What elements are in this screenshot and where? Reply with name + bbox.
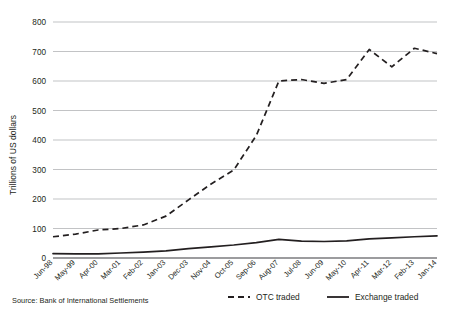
y-tick-label: 500 — [32, 107, 46, 116]
legend-label-exchange-traded: Exchange traded — [355, 292, 419, 302]
legend-label-otc-traded: OTC traded — [256, 292, 300, 302]
chart-container: 0100200300400500600700800 Trillions of U… — [0, 0, 450, 322]
y-tick-label: 800 — [32, 18, 46, 27]
y-axis-title: Trillions of US dollars — [8, 115, 18, 195]
y-tick-label: 300 — [32, 166, 46, 175]
y-tick-label: 100 — [32, 225, 46, 234]
y-axis-tick-labels: 0100200300400500600700800 — [32, 18, 46, 263]
source-note: Source: Bank of International Settlement… — [12, 296, 149, 305]
y-tick-label: 400 — [32, 136, 46, 145]
y-tick-label: 700 — [32, 48, 46, 57]
line-chart: 0100200300400500600700800 Trillions of U… — [0, 0, 450, 322]
y-tick-label: 600 — [32, 77, 46, 86]
y-tick-label: 200 — [32, 195, 46, 204]
